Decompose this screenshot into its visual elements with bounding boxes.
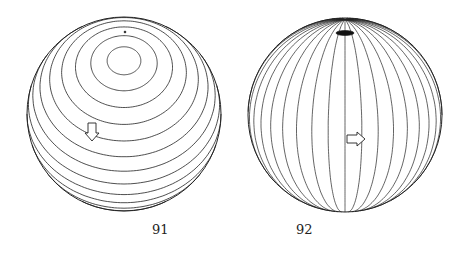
arrow-down-icon [85,123,99,141]
sphere-91 [27,17,221,211]
figure-label-92: 92 [296,222,313,237]
diagram-canvas [0,0,462,253]
figure-label-91: 91 [152,222,169,237]
sphere-92 [248,18,442,212]
arrow-right-icon [347,132,365,146]
